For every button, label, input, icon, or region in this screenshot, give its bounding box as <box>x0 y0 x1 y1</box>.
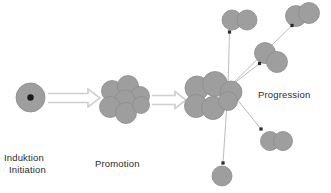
tumor-cell <box>212 166 232 186</box>
tumor-cell <box>299 3 320 24</box>
induction-label-line1: Induktion <box>4 152 46 164</box>
metastasis-top-right <box>286 3 320 27</box>
metastasis-lower-right <box>261 132 293 151</box>
tumor-cell <box>219 92 238 111</box>
metastasis-top-left <box>222 10 257 30</box>
stage-cell-group <box>16 72 242 124</box>
cluster-promotion <box>100 76 150 124</box>
metastasis-bottom <box>212 166 232 186</box>
metastasis-top-left-line <box>228 32 230 88</box>
stage-label-induction: Induktion Initiation <box>4 152 46 176</box>
stage-label-promotion: Promotion <box>95 158 140 170</box>
metastasis-top-left-arrowhead <box>228 30 231 33</box>
cluster-induction <box>16 83 45 112</box>
tumor-cell <box>267 52 288 73</box>
metastasis-middle-right <box>255 43 288 73</box>
cell-nucleus <box>27 94 33 100</box>
metastasis-middle-right-arrowhead <box>258 62 261 65</box>
metastasis-lower-right-arrowhead <box>259 127 262 130</box>
arrow-induction-to-promotion <box>48 89 100 107</box>
cluster-progression <box>185 72 243 120</box>
metastasis-bottom-arrowhead <box>221 161 224 164</box>
stage-label-progression: Progression <box>258 89 310 101</box>
metastasis-top-right-arrowhead <box>290 24 293 27</box>
arrow-promotion-to-progression <box>152 92 186 109</box>
tumor-cell <box>237 10 257 30</box>
tumor-cell <box>274 132 293 151</box>
tumor-cell <box>133 97 150 114</box>
induction-label-line2: Initiation <box>4 164 46 176</box>
diagram-canvas: Induktion Initiation Promotion Progressi… <box>0 0 331 193</box>
